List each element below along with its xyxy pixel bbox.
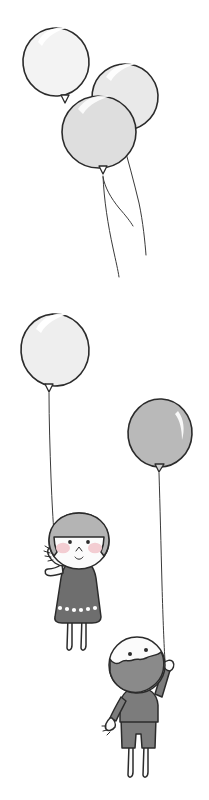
girl (44, 513, 109, 650)
dress-dot (72, 608, 76, 612)
boy-head (109, 637, 165, 693)
girl-blush-left (56, 543, 70, 553)
boy-hand-down (102, 718, 115, 735)
dress-dot (86, 607, 90, 611)
balloon-knot (61, 95, 69, 103)
illustration-canvas: Balloons and Two Children Hand-drawn lin… (0, 0, 209, 800)
cluster-string-1 (103, 176, 119, 277)
dress-dot (93, 606, 97, 610)
girl-blush-right (88, 543, 102, 553)
boy-leg-right (143, 745, 148, 777)
boy-eye-right (144, 648, 148, 652)
dress-dot (79, 608, 83, 612)
balloon-knot (45, 384, 53, 392)
girl-eye-left (68, 540, 72, 544)
balloon-body (126, 397, 193, 468)
boy-palm (105, 718, 115, 730)
boy-eye-left (128, 652, 132, 656)
dress-dot (65, 607, 69, 611)
floating-balloon-cluster (20, 25, 163, 277)
girl-eye-right (86, 540, 90, 544)
balloon-body (62, 96, 136, 168)
girl-balloon (19, 312, 92, 392)
balloon-body (19, 312, 92, 389)
cluster-balloon-front (62, 95, 136, 174)
balloon-body (20, 25, 93, 100)
girl-head (49, 513, 109, 569)
boy-balloon-string (159, 473, 165, 661)
cluster-balloon-back-left (20, 25, 93, 103)
balloon-knot (155, 464, 164, 472)
balloon-knot (99, 166, 107, 174)
dress-dot (58, 606, 62, 610)
boy-legs (128, 745, 148, 777)
boy-balloon (126, 397, 193, 472)
boy (102, 637, 174, 777)
girl-balloon-string (49, 393, 54, 533)
boy-leg-left (128, 745, 133, 777)
scene-svg (0, 0, 209, 800)
